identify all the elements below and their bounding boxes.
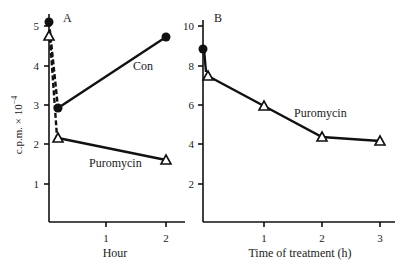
tick-label: 1 xyxy=(34,178,40,190)
data-point xyxy=(199,45,208,54)
data-point xyxy=(259,101,269,110)
tick-label: 2 xyxy=(319,232,325,244)
panel-a-x-ticks: 1 2 xyxy=(103,222,169,244)
tick-label: 3 xyxy=(377,232,383,244)
tick-label: 10 xyxy=(183,20,195,32)
panel-a-xlabel: Hour xyxy=(103,246,128,260)
puromycin-label-b: Puromycin xyxy=(294,106,347,120)
con-label: Con xyxy=(133,59,153,73)
figure: 1 2 3 4 5 1 2 A Hour c.p.m. × 10−4 Con xyxy=(0,0,405,270)
series-puromycin-a xyxy=(44,31,171,164)
tick-label: 4 xyxy=(34,60,40,72)
panel-a-y-ticks: 1 2 3 4 5 xyxy=(34,20,50,190)
y-axis-label: c.p.m. × 10−4 xyxy=(10,96,24,154)
tick-label: 5 xyxy=(34,20,40,32)
data-point xyxy=(203,71,213,80)
panel-b-label: B xyxy=(214,11,222,25)
tick-label: 1 xyxy=(103,232,109,244)
tick-label: 1 xyxy=(261,232,267,244)
tick-label: 2 xyxy=(34,138,40,150)
tick-label: 4 xyxy=(189,138,195,150)
data-point xyxy=(45,18,54,27)
tick-label: 8 xyxy=(189,60,195,72)
panel-b-y-ticks: 2 4 6 8 10 xyxy=(183,20,203,190)
puromycin-label-a: Puromycin xyxy=(89,156,142,170)
panel-a: 1 2 3 4 5 1 2 A Hour c.p.m. × 10−4 Con xyxy=(10,11,185,260)
panel-b-xlabel: Time of treatment (h) xyxy=(248,246,351,260)
panel-a-label: A xyxy=(63,11,72,25)
tick-label: 2 xyxy=(189,178,195,190)
panel-b-x-ticks: 1 2 3 xyxy=(261,222,383,244)
data-point xyxy=(162,33,171,42)
panel-b: 2 4 6 8 10 1 2 3 B Time of treatment (h) xyxy=(183,11,395,260)
tick-label: 6 xyxy=(189,99,195,111)
tick-label: 2 xyxy=(163,232,169,244)
tick-label: 3 xyxy=(34,99,40,111)
data-point xyxy=(44,31,54,40)
